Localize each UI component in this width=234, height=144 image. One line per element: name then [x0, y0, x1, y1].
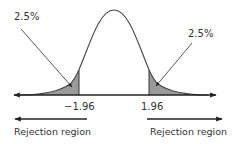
right-pointer-arrow [156, 43, 192, 86]
normal-curve [20, 10, 208, 95]
diagram-canvas: 2.5% 2.5% −1.96 1.96 Rejection region Re… [0, 0, 234, 144]
left-pointer-arrow [21, 29, 72, 87]
right-critical-value-label: 1.96 [141, 101, 163, 112]
left-critical-value-label: −1.96 [64, 101, 95, 112]
right-rejection-region-label: Rejection region [150, 126, 227, 137]
left-tail-percent-label: 2.5% [14, 11, 39, 22]
left-rejection-region-label: Rejection region [14, 126, 91, 137]
right-tail-percent-label: 2.5% [188, 28, 213, 39]
